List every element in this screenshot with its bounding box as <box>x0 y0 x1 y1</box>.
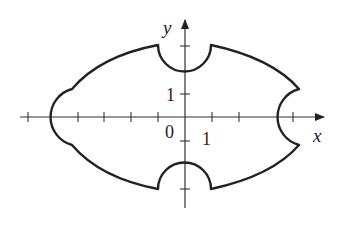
x-tick-label-1: 1 <box>202 129 211 149</box>
origin-label: 0 <box>165 122 174 142</box>
y-tick-label-1: 1 <box>166 85 175 105</box>
y-axis-label: y <box>161 17 172 38</box>
region-diagram: y x 0 1 1 <box>0 0 344 225</box>
x-axis-label: x <box>312 125 322 146</box>
